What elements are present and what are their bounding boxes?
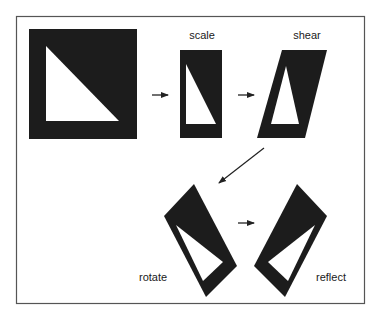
- label-reflect: reflect: [316, 271, 346, 283]
- label-scale: scale: [189, 29, 215, 41]
- transform-diagram: scale shear rotate reflect: [0, 0, 381, 316]
- rotated-parallelogram: [164, 184, 237, 297]
- original-shape: [29, 29, 137, 139]
- label-shear: shear: [293, 29, 321, 41]
- arrow-to-rotate: [219, 148, 264, 183]
- label-rotate: rotate: [139, 271, 167, 283]
- original-square: [29, 29, 137, 139]
- sheared-shape: [257, 50, 327, 138]
- scaled-shape: [180, 50, 222, 138]
- rotated-shape: [164, 184, 237, 297]
